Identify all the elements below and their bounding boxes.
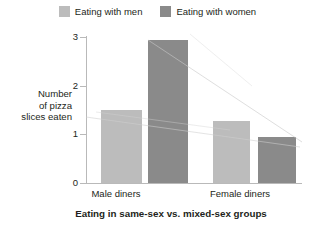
legend-label: Eating with women: [176, 6, 256, 17]
y-axis-title-line-2: of pizza: [2, 100, 72, 112]
y-axis-title: Number of pizza slices eaten: [2, 88, 72, 123]
y-tick-label-1: 1: [8, 129, 78, 139]
x-category-label-male-diners: Male diners: [76, 188, 156, 199]
legend-swatch-icon: [160, 6, 171, 17]
x-axis-title: Eating in same-sex vs. mixed-sex groups: [40, 208, 302, 219]
x-category-label-female-diners: Female diners: [196, 188, 284, 199]
plot-area: [86, 37, 301, 183]
bar-female-diners-eating-with-men[interactable]: [213, 121, 250, 183]
y-axis-title-line-3: slices eaten: [2, 111, 72, 123]
bar-male-diners-eating-with-men[interactable]: [101, 110, 142, 183]
y-axis-title-line-1: Number: [2, 88, 72, 100]
pizza-slices-bar-chart: Eating with men Eating with women 3 2 1 …: [0, 0, 315, 233]
bar-male-diners-eating-with-women[interactable]: [148, 40, 188, 184]
x-axis-line: [86, 183, 302, 184]
bar-female-diners-eating-with-women[interactable]: [258, 137, 296, 184]
legend-label: Eating with men: [75, 6, 143, 17]
y-tick-label-0: 0: [8, 178, 78, 188]
y-tick-label-3: 3: [8, 32, 78, 42]
legend-item-eating-with-women: Eating with women: [160, 6, 256, 17]
